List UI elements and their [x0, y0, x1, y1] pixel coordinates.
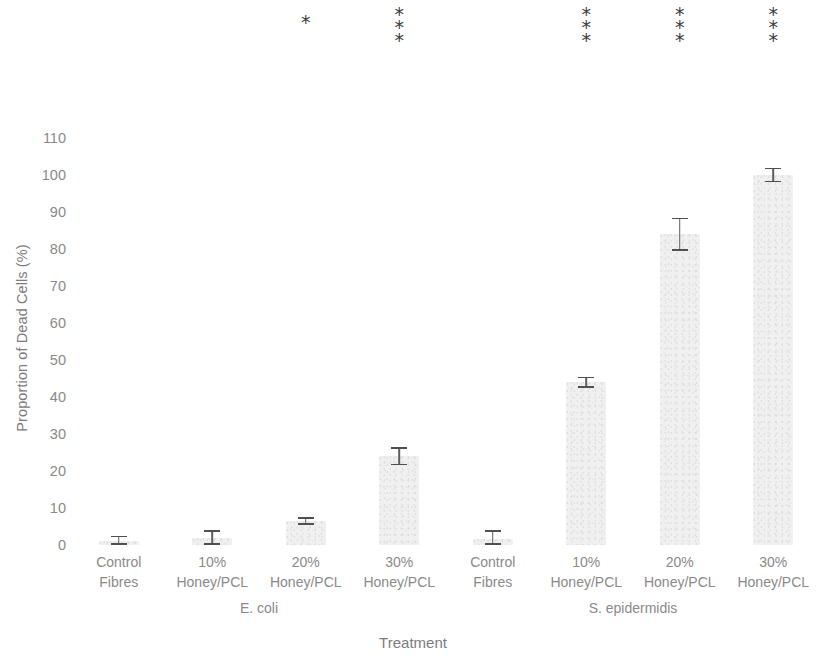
error-bar-cap-bottom — [391, 464, 407, 466]
x-axis-title: Treatment — [0, 634, 826, 651]
bar — [660, 234, 700, 545]
asterisk-icon: * — [582, 34, 592, 47]
x-label-line-1: 10% — [198, 554, 226, 570]
x-label-line-2: Honey/PCL — [550, 572, 622, 592]
x-axis-tick-label: 30%Honey/PCL — [363, 552, 435, 592]
error-bar-line — [679, 218, 681, 251]
bar — [566, 382, 606, 545]
y-axis-tick-90: 90 — [0, 205, 66, 220]
x-label-line-1: 30% — [385, 554, 413, 570]
asterisk-icon: * — [769, 34, 779, 47]
error-bar-cap-top — [391, 447, 407, 449]
bar-group — [166, 138, 260, 545]
error-bar — [485, 530, 501, 545]
y-axis-tick-100: 100 — [0, 168, 66, 183]
plot-area — [72, 138, 820, 545]
y-axis-tick-60: 60 — [0, 316, 66, 331]
x-axis-group-labels: E. coliS. epidermidis — [72, 600, 820, 624]
x-label-line-2: Honey/PCL — [363, 572, 435, 592]
x-label-line-1: Control — [470, 554, 515, 570]
y-axis-tick-20: 20 — [0, 464, 66, 479]
y-axis-tick-80: 80 — [0, 242, 66, 257]
error-bar-cap-bottom — [578, 386, 594, 388]
y-axis-tick-110: 110 — [0, 131, 66, 146]
x-label-line-2: Honey/PCL — [644, 572, 716, 592]
error-bar-cap-bottom — [672, 249, 688, 251]
significance-marker: *** — [675, 8, 685, 47]
error-bar — [391, 447, 407, 466]
x-label-line-2: Honey/PCL — [270, 572, 342, 592]
bar-group — [446, 138, 540, 545]
bar-group — [540, 138, 634, 545]
group-label-s-epidermidis: S. epidermidis — [589, 600, 678, 616]
error-bar-cap-top — [485, 530, 501, 532]
error-bar-cap-bottom — [765, 181, 781, 183]
x-label-line-1: 20% — [292, 554, 320, 570]
y-axis-tick-0: 0 — [0, 538, 66, 553]
asterisk-icon: * — [301, 16, 311, 29]
error-bar — [111, 536, 127, 545]
error-bar-cap-bottom — [298, 523, 314, 525]
x-label-line-2: Fibres — [96, 572, 141, 592]
significance-marker: * — [301, 16, 311, 29]
significance-marker: *** — [582, 8, 592, 47]
significance-marker: *** — [769, 8, 779, 47]
bar-group — [259, 138, 353, 545]
y-axis-tick-10: 10 — [0, 501, 66, 516]
error-bar-line — [398, 447, 400, 466]
significance-annotations: ************* — [72, 0, 820, 70]
group-label-e-coli: E. coli — [240, 600, 278, 616]
x-label-line-2: Honey/PCL — [737, 572, 809, 592]
y-axis-tick-40: 40 — [0, 390, 66, 405]
x-label-line-1: 20% — [666, 554, 694, 570]
bar — [753, 175, 793, 545]
error-bar-cap-top — [578, 377, 594, 379]
x-axis-tick-label: 10%Honey/PCL — [176, 552, 248, 592]
error-bar — [672, 218, 688, 251]
x-axis-tick-label: ControlFibres — [96, 552, 141, 592]
error-bar-cap-top — [204, 530, 220, 532]
error-bar-cap-top — [672, 218, 688, 220]
error-bar-cap-bottom — [485, 543, 501, 545]
x-label-line-1: Control — [96, 554, 141, 570]
error-bar — [765, 168, 781, 183]
bar-group — [72, 138, 166, 545]
y-axis-tick-50: 50 — [0, 353, 66, 368]
x-label-line-2: Fibres — [470, 572, 515, 592]
error-bar — [204, 530, 220, 545]
x-label-line-2: Honey/PCL — [176, 572, 248, 592]
bar-group — [633, 138, 727, 545]
x-axis-tick-label: 10%Honey/PCL — [550, 552, 622, 592]
asterisk-icon: * — [395, 34, 405, 47]
error-bar-cap-bottom — [204, 543, 220, 545]
error-bar — [298, 517, 314, 524]
y-axis-tick-30: 30 — [0, 427, 66, 442]
x-axis-tick-label: 30%Honey/PCL — [737, 552, 809, 592]
asterisk-icon: * — [675, 34, 685, 47]
bar-group — [353, 138, 447, 545]
y-axis-tick-70: 70 — [0, 279, 66, 294]
error-bar-cap-top — [298, 517, 314, 519]
error-bar-cap-bottom — [111, 543, 127, 545]
x-axis-tick-labels: ControlFibres10%Honey/PCL20%Honey/PCL30%… — [72, 552, 820, 600]
bar — [379, 456, 419, 545]
x-label-line-1: 30% — [759, 554, 787, 570]
x-axis-tick-label: ControlFibres — [470, 552, 515, 592]
error-bar-cap-top — [111, 536, 127, 538]
error-bar-cap-top — [765, 168, 781, 170]
x-label-line-1: 10% — [572, 554, 600, 570]
bar-chart: Proportion of Dead Cells (%) 11010090807… — [0, 0, 826, 663]
error-bar — [578, 377, 594, 388]
x-axis-tick-label: 20%Honey/PCL — [644, 552, 716, 592]
bar-group — [727, 138, 821, 545]
x-axis-tick-label: 20%Honey/PCL — [270, 552, 342, 592]
significance-marker: *** — [395, 8, 405, 47]
